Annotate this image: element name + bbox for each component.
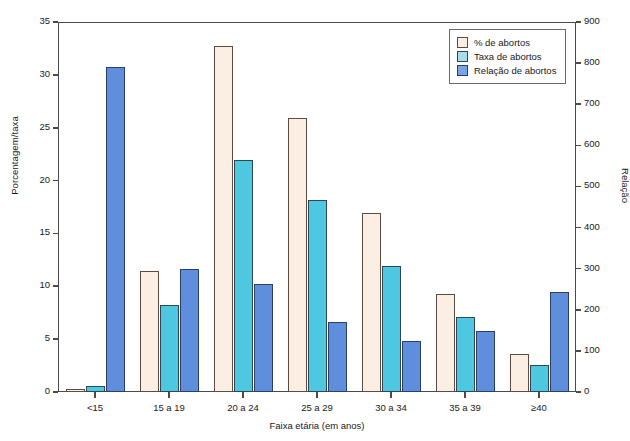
tick-mark <box>53 233 58 235</box>
bar <box>456 317 475 392</box>
bar <box>180 269 199 392</box>
y-axis-left-tick-label: 30 <box>39 68 50 79</box>
tick-mark <box>53 391 58 393</box>
bar <box>254 284 273 392</box>
tick-mark <box>53 74 58 76</box>
bar <box>106 67 125 392</box>
y-axis-right-tick-label: 700 <box>584 97 600 108</box>
legend-item: Taxa de abortos <box>457 49 556 63</box>
tick-mark <box>168 392 170 398</box>
bar <box>476 331 495 392</box>
y-axis-left-tick-label: 25 <box>39 121 50 132</box>
y-axis-left-tick-label: 0 <box>45 385 50 396</box>
y-axis-left-tick-label: 20 <box>39 174 50 185</box>
tick-mark <box>53 180 58 182</box>
tick-mark <box>390 392 392 398</box>
tick-mark <box>576 21 581 23</box>
y-axis-left-tick-label: 35 <box>39 15 50 26</box>
y-axis-left-title: Porcentagem/taxa <box>9 76 20 236</box>
y-axis-left-tick-label: 15 <box>39 226 50 237</box>
y-axis-right-tick-label: 200 <box>584 303 600 314</box>
chart-figure: 05101520253035 0100200300400500600700800… <box>0 0 630 441</box>
y-axis-right-tick-label: 300 <box>584 262 600 273</box>
bar <box>510 354 529 392</box>
bar <box>140 271 159 392</box>
bar <box>328 322 347 392</box>
bar <box>530 365 549 392</box>
legend-swatch-icon <box>457 51 468 62</box>
tick-mark <box>538 392 540 398</box>
bar <box>382 266 401 392</box>
legend-item: Relação de abortos <box>457 63 556 77</box>
y-axis-right-tick-label: 600 <box>584 138 600 149</box>
y-axis-left-tick-label: 5 <box>45 332 50 343</box>
bar <box>402 341 421 392</box>
legend-item-label: Relação de abortos <box>474 65 556 76</box>
legend-item-label: % de abortos <box>474 37 530 48</box>
tick-mark <box>576 62 581 64</box>
y-axis-right-tick-label: 500 <box>584 179 600 190</box>
tick-mark <box>576 103 581 105</box>
y-axis-right-tick-label: 800 <box>584 56 600 67</box>
bar <box>86 386 105 392</box>
bar <box>288 118 307 392</box>
legend-swatch-icon <box>457 37 468 48</box>
x-axis-title: Faixa etária (em anos) <box>58 420 576 431</box>
tick-mark <box>576 145 581 147</box>
tick-mark <box>576 268 581 270</box>
legend-swatch-icon <box>457 65 468 76</box>
y-axis-right-title: Relação <box>620 141 630 231</box>
bar <box>550 292 569 392</box>
chart-legend: % de abortosTaxa de abortosRelação de ab… <box>449 29 566 84</box>
y-axis-right-tick-label: 900 <box>584 15 600 26</box>
tick-mark <box>242 392 244 398</box>
bar <box>436 294 455 392</box>
tick-mark <box>94 392 96 398</box>
legend-item: % de abortos <box>457 35 556 49</box>
y-axis-right-tick-label: 100 <box>584 344 600 355</box>
tick-mark <box>576 391 581 393</box>
y-axis-left-tick-label: 10 <box>39 279 50 290</box>
tick-mark <box>576 350 581 352</box>
tick-mark <box>53 338 58 340</box>
bar <box>214 46 233 392</box>
bar <box>308 200 327 392</box>
bar <box>160 305 179 392</box>
tick-mark <box>576 186 581 188</box>
tick-mark <box>53 21 58 23</box>
y-axis-right-tick-label: 400 <box>584 221 600 232</box>
tick-mark <box>464 392 466 398</box>
bar <box>66 389 85 392</box>
bar <box>234 160 253 392</box>
tick-mark <box>53 285 58 287</box>
tick-mark <box>576 309 581 311</box>
y-axis-right-tick-label: 0 <box>584 385 589 396</box>
bar <box>362 213 381 392</box>
tick-mark <box>53 127 58 129</box>
x-axis-tick-label: ≥40 <box>494 402 584 413</box>
tick-mark <box>576 227 581 229</box>
legend-item-label: Taxa de abortos <box>474 51 542 62</box>
tick-mark <box>316 392 318 398</box>
